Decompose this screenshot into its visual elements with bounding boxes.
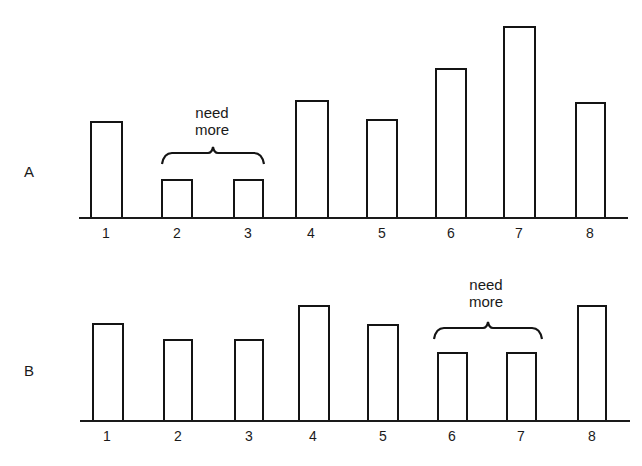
annotation-b: need more bbox=[446, 276, 526, 310]
bar-b-8 bbox=[577, 305, 607, 421]
bar-b-3 bbox=[234, 339, 264, 421]
annotation-b-line1: need bbox=[446, 276, 526, 293]
tick-label-b-3: 3 bbox=[234, 428, 264, 444]
bar-b-1 bbox=[92, 323, 124, 421]
bar-b-2 bbox=[163, 339, 193, 421]
tick-label-b-7: 7 bbox=[506, 428, 536, 444]
bar-b-7 bbox=[506, 352, 537, 421]
tick-label-b-4: 4 bbox=[298, 428, 328, 444]
bar-b-5 bbox=[367, 324, 399, 421]
brace-icon-b bbox=[432, 320, 544, 342]
chart-panel-b: B 1 2 3 4 5 6 7 8 need more bbox=[0, 0, 642, 466]
tick-label-b-1: 1 bbox=[92, 428, 122, 444]
tick-label-b-8: 8 bbox=[577, 428, 607, 444]
tick-label-b-5: 5 bbox=[368, 428, 398, 444]
panel-label-b: B bbox=[24, 362, 34, 379]
annotation-b-line2: more bbox=[446, 293, 526, 310]
tick-label-b-2: 2 bbox=[163, 428, 193, 444]
bar-b-6 bbox=[437, 352, 468, 421]
tick-label-b-6: 6 bbox=[437, 428, 467, 444]
bar-b-4 bbox=[298, 305, 330, 421]
x-axis-b bbox=[80, 420, 630, 422]
